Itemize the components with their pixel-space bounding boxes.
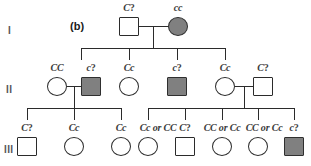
individual-iii-5-male-unaffected[interactable] bbox=[175, 137, 195, 156]
sibship-drop-ii-4 bbox=[225, 48, 226, 60]
individual-ii-3-female-unaffected[interactable] bbox=[119, 77, 139, 96]
sibship-drop-iii-5 bbox=[185, 108, 186, 120]
sibship-drop-ii-1 bbox=[81, 48, 82, 60]
genotype-label-ii-4: c? bbox=[172, 62, 181, 73]
generation-label-i: I bbox=[8, 25, 11, 36]
individual-iii-6-female-unaffected[interactable] bbox=[212, 137, 232, 156]
pedigree-chart: I II III (b) C? cc CC c? Cc c? Cc C? C? … bbox=[0, 0, 311, 166]
descent-line-ii-right bbox=[244, 86, 245, 108]
sibship-drop-iii-6 bbox=[222, 108, 223, 120]
individual-i-2-female-affected[interactable] bbox=[168, 17, 188, 36]
panel-label: (b) bbox=[70, 20, 84, 32]
genotype-label-i-2: cc bbox=[174, 2, 182, 13]
genotype-label-ii-5: Cc bbox=[220, 62, 231, 73]
sibship-line-ii bbox=[81, 48, 226, 49]
genotype-label-iii-1: C? bbox=[21, 122, 32, 133]
generation-label-iii: III bbox=[4, 144, 14, 155]
individual-iii-2-female-unaffected[interactable] bbox=[64, 137, 84, 156]
individual-iii-3-female-unaffected[interactable] bbox=[111, 137, 131, 156]
genotype-label-ii-6: C? bbox=[257, 62, 268, 73]
sibship-drop-iii-4 bbox=[148, 108, 149, 120]
sibship-drop-ii-3 bbox=[177, 48, 178, 60]
individual-ii-5-female-unaffected[interactable] bbox=[215, 77, 235, 96]
individual-iii-7-female-unaffected[interactable] bbox=[248, 137, 268, 156]
sibship-drop-iii-3 bbox=[121, 108, 122, 120]
sibship-drop-iii-7 bbox=[258, 108, 259, 120]
individual-ii-2-male-affected[interactable] bbox=[81, 77, 101, 96]
individual-ii-4-male-affected[interactable] bbox=[167, 77, 187, 96]
genotype-label-iii-5: C? bbox=[179, 122, 190, 133]
descent-line-ii-left bbox=[74, 86, 75, 108]
descent-line-i bbox=[153, 26, 154, 48]
individual-iii-4-female-unaffected[interactable] bbox=[138, 137, 158, 156]
individual-i-1-male-unaffected[interactable] bbox=[119, 17, 139, 36]
genotype-label-iii-2: Cc bbox=[69, 122, 80, 133]
sibship-drop-iii-8 bbox=[294, 108, 295, 120]
genotype-label-iii-8: c? bbox=[289, 122, 298, 133]
individual-iii-8-male-affected[interactable] bbox=[284, 137, 304, 156]
genotype-label-ii-2: c? bbox=[86, 62, 95, 73]
genotype-label-iii-4: Cc or CC bbox=[140, 122, 177, 133]
individual-ii-6-male-unaffected[interactable] bbox=[253, 77, 273, 96]
genotype-label-iii-6: CC or Cc bbox=[204, 122, 241, 133]
generation-label-ii: II bbox=[6, 84, 12, 95]
sibship-drop-iii-2 bbox=[74, 108, 75, 120]
individual-ii-1-female-unaffected[interactable] bbox=[47, 77, 67, 96]
sibship-drop-iii-1 bbox=[27, 108, 28, 120]
genotype-label-iii-3: Cc bbox=[116, 122, 127, 133]
sibship-drop-ii-2 bbox=[129, 48, 130, 60]
genotype-label-ii-3: Cc bbox=[124, 62, 135, 73]
genotype-label-i-1: C? bbox=[123, 2, 134, 13]
individual-iii-1-male-unaffected[interactable] bbox=[17, 137, 37, 156]
genotype-label-iii-7: CC or Cc bbox=[246, 122, 283, 133]
genotype-label-ii-1: CC bbox=[51, 62, 64, 73]
